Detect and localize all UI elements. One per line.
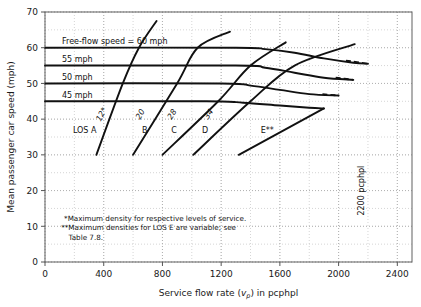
ytick-label-7: 70 bbox=[27, 7, 39, 17]
xtick-label-3: 1200 bbox=[210, 269, 233, 279]
footnote-1: **Maximum densities for LOS E are variab… bbox=[61, 223, 236, 232]
footnote-2: Table 7.8. bbox=[67, 233, 103, 242]
y-axis-title: Mean passenger car speed (mph) bbox=[6, 61, 16, 212]
free-flow-speed-label-0: Free-flow speed = 60 mph bbox=[62, 37, 168, 46]
los-boundary-line-4 bbox=[239, 108, 324, 154]
chart-canvas: Free-flow speed = 60 mph55 mph50 mph45 m… bbox=[0, 0, 421, 307]
free-flow-speed-label-1: 55 mph bbox=[62, 55, 93, 64]
xtick-label-2: 800 bbox=[154, 269, 171, 279]
speed-flow-curve-3 bbox=[45, 101, 324, 108]
ytick-label-4: 40 bbox=[27, 114, 39, 124]
los-zone-label-1: B bbox=[142, 126, 148, 135]
x-axis-title-main: Service flow rate ( bbox=[159, 288, 241, 298]
capacity-annotation: 2200 pcphpl bbox=[357, 166, 366, 216]
ytick-label-1: 10 bbox=[27, 222, 39, 232]
free-flow-speed-label-3: 45 mph bbox=[62, 91, 93, 100]
xtick-label-4: 1600 bbox=[268, 269, 291, 279]
xtick-label-1: 400 bbox=[95, 269, 112, 279]
xtick-label-0: 0 bbox=[42, 269, 48, 279]
xtick-label-6: 2400 bbox=[386, 269, 409, 279]
los-zone-label-2: C bbox=[171, 126, 177, 135]
los-zone-label-4: E** bbox=[261, 126, 274, 135]
ytick-label-0: 0 bbox=[32, 257, 38, 267]
los-zone-label-3: D bbox=[202, 126, 208, 135]
los-boundary-line-2 bbox=[162, 42, 285, 155]
x-axis-title-tail: ) in pcphpl bbox=[250, 288, 298, 298]
xtick-label-5: 2000 bbox=[327, 269, 350, 279]
speed-flow-chart: Free-flow speed = 60 mph55 mph50 mph45 m… bbox=[0, 0, 421, 307]
footnote-0: *Maximum density for respective levels o… bbox=[64, 214, 246, 223]
density-label-2: 28 bbox=[166, 108, 179, 121]
los-boundary-line-3 bbox=[193, 44, 354, 155]
density-label-0: 12* bbox=[94, 106, 109, 123]
ytick-label-3: 30 bbox=[27, 150, 39, 160]
free-flow-speed-label-2: 50 mph bbox=[62, 73, 93, 82]
ytick-label-6: 60 bbox=[27, 43, 39, 53]
ytick-label-5: 50 bbox=[27, 79, 39, 89]
los-zone-label-0: LOS A bbox=[73, 126, 97, 135]
ytick-label-2: 20 bbox=[27, 186, 39, 196]
x-axis-title: Service flow rate (vp) in pcphpl bbox=[159, 288, 298, 300]
